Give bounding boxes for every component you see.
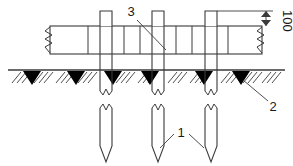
callout-1-text: 1 xyxy=(177,125,184,140)
callout-3-text: 3 xyxy=(127,4,134,19)
pile-2-head xyxy=(152,11,164,26)
drawing-canvas: 100 3 2 1 xyxy=(0,0,293,166)
pile-1-head xyxy=(100,11,112,26)
engineering-drawing-figure: 100 3 2 1 xyxy=(0,0,293,166)
pile-3-head xyxy=(205,11,217,26)
dimension-100-text: 100 xyxy=(280,10,293,32)
drawing-background xyxy=(0,0,293,166)
capping-beam xyxy=(45,26,264,54)
callout-2-text: 2 xyxy=(269,99,276,114)
